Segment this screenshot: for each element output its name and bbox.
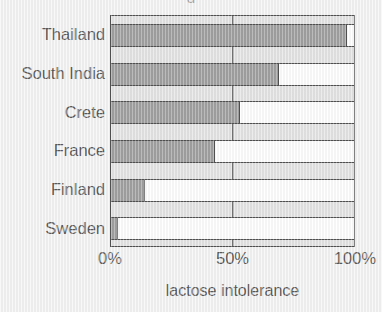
- x-tick-100: 100%: [334, 250, 376, 267]
- plot-area: [110, 15, 355, 247]
- bar-row: [111, 63, 354, 86]
- gridline-50-percent: [232, 16, 234, 246]
- category-label-finland: Finland: [0, 181, 105, 198]
- category-label-crete: Crete: [0, 104, 105, 121]
- category-axis: ThailandSouth IndiaCreteFranceFinlandSwe…: [0, 15, 105, 247]
- x-axis-title: lactose intolerance: [110, 283, 355, 299]
- bar-fill: [111, 180, 145, 201]
- category-label-france: France: [0, 142, 105, 159]
- bar-fill: [111, 218, 118, 239]
- x-tick-50: 50%: [216, 250, 249, 267]
- chart-title-fragment: g: [0, 0, 382, 3]
- x-tick-0: 0%: [98, 250, 122, 267]
- bar-fill: [111, 141, 215, 162]
- bar-row: [111, 24, 354, 47]
- bar-row: [111, 179, 354, 202]
- bar-row: [111, 101, 354, 124]
- bar-fill: [111, 102, 240, 123]
- category-label-thailand: Thailand: [0, 26, 105, 43]
- bar-row: [111, 140, 354, 163]
- x-axis-tick-labels: 0%50%100%: [0, 250, 382, 272]
- category-label-south-india: South India: [0, 65, 105, 82]
- bar-row: [111, 217, 354, 240]
- bar-fill: [111, 25, 347, 46]
- category-label-sweden: Sweden: [0, 220, 105, 237]
- lactose-intolerance-bar-chart: g ThailandSouth IndiaCreteFranceFinlandS…: [0, 0, 382, 312]
- bar-fill: [111, 64, 279, 85]
